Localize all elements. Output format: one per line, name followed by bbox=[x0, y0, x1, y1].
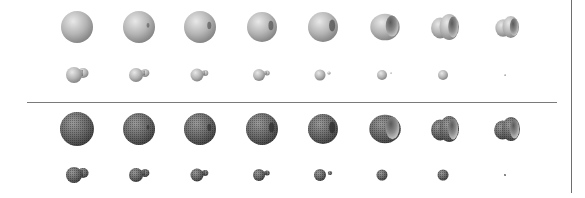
droplet-2 bbox=[129, 168, 149, 182]
droplet-4 bbox=[253, 169, 270, 181]
deforming-shape-7 bbox=[431, 14, 459, 40]
deforming-shape-6 bbox=[370, 14, 399, 41]
droplet-5 bbox=[314, 169, 332, 181]
deforming-shape-2 bbox=[123, 113, 155, 145]
deforming-shape-8 bbox=[495, 16, 519, 38]
droplet-3 bbox=[191, 169, 209, 182]
figure-panel bbox=[0, 0, 585, 198]
deforming-shape-7 bbox=[431, 116, 459, 142]
deforming-shape-4 bbox=[246, 113, 278, 145]
droplet-8 bbox=[504, 74, 506, 76]
droplet-3 bbox=[191, 69, 209, 82]
deforming-shape-3 bbox=[184, 113, 216, 145]
droplet-6 bbox=[377, 170, 388, 181]
deforming-shape-6 bbox=[369, 115, 401, 144]
deforming-shape-5 bbox=[308, 114, 338, 144]
droplet-5 bbox=[315, 70, 331, 81]
droplet-7 bbox=[438, 170, 449, 181]
deforming-shape-5 bbox=[308, 12, 338, 42]
deforming-shape-2 bbox=[123, 11, 155, 43]
panel-mesh-rendered bbox=[60, 112, 520, 183]
panel-smooth-shaded bbox=[61, 11, 519, 83]
droplet-1 bbox=[66, 67, 89, 83]
deforming-shape-3 bbox=[184, 11, 216, 43]
deforming-shape-8 bbox=[494, 117, 520, 141]
droplet-6 bbox=[377, 70, 392, 80]
droplet-2 bbox=[129, 68, 149, 82]
droplet-7 bbox=[438, 70, 448, 80]
deforming-shape-1 bbox=[61, 11, 93, 43]
droplet-1 bbox=[66, 167, 89, 183]
deforming-shape-4 bbox=[247, 12, 277, 42]
droplet-8 bbox=[504, 174, 506, 176]
deforming-shape-1 bbox=[60, 112, 94, 146]
droplet-4 bbox=[253, 69, 270, 81]
